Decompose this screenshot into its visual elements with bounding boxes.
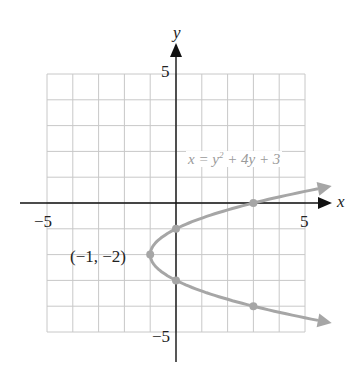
vertex-label: (−1, −2) (70, 248, 126, 265)
y-tick-neg5: −5 (152, 328, 170, 345)
y-axis-label: y (173, 24, 181, 41)
parabola-chart (0, 0, 360, 385)
data-point (249, 199, 257, 207)
data-point (172, 276, 180, 284)
x-tick-neg5: −5 (34, 213, 52, 230)
curve-arrow-icon (317, 182, 332, 196)
y-axis-arrow-icon (170, 43, 182, 57)
curve-arrow-icon (317, 314, 332, 328)
data-point (146, 251, 154, 259)
x-tick-5: 5 (300, 213, 309, 230)
y-tick-5: 5 (161, 63, 170, 80)
x-axis-label: x (337, 193, 345, 210)
equation-label: x = y2 + 4y + 3 (186, 151, 282, 167)
x-axis-arrow-icon (318, 197, 332, 209)
data-point (172, 225, 180, 233)
data-point (249, 302, 257, 310)
